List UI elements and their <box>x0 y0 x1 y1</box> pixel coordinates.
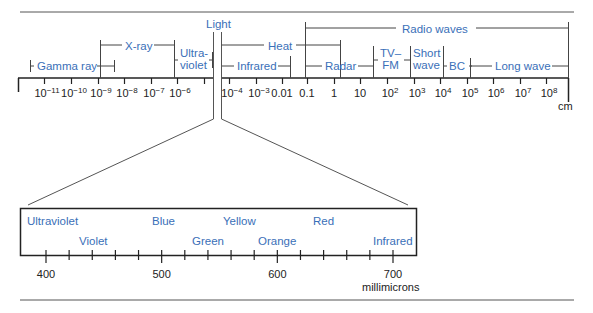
visible-axis-tick-label: 600 <box>268 268 286 280</box>
main-axis-tick-label: 10−7 <box>143 87 164 99</box>
label-ultraviolet-line1: Ultra- <box>180 47 208 59</box>
label-infrared-band: Infrared <box>237 60 277 72</box>
label-short-wave-line1: Short <box>413 47 441 59</box>
label-red: Red <box>313 215 334 227</box>
main-axis-tick-label: 10−3 <box>248 87 269 99</box>
label-orange: Orange <box>258 235 296 247</box>
visible-axis-tick-label: 700 <box>384 268 402 280</box>
label-heat: Heat <box>268 40 292 52</box>
main-axis-unit: cm <box>558 100 573 112</box>
main-axis-tick-label: 105 <box>462 87 479 99</box>
main-axis-tick-label: 10−6 <box>169 87 190 99</box>
label-radar: Radar <box>325 60 356 72</box>
label-ultraviolet-line2: violet <box>180 59 207 71</box>
label-blue: Blue <box>152 215 175 227</box>
label-yellow: Yellow <box>223 215 256 227</box>
label-tv-fm-line1: TV– <box>380 47 401 59</box>
main-axis-tick-label: 0.1 <box>299 87 314 99</box>
main-axis-tick-label: 102 <box>382 87 399 99</box>
main-axis-tick-label: 10 <box>354 87 366 99</box>
label-long-wave: Long wave <box>495 60 551 72</box>
main-axis-tick-label: 108 <box>541 87 558 99</box>
main-axis-tick-label: 10−4 <box>221 87 242 99</box>
visible-axis-tick-label: 400 <box>37 268 55 280</box>
label-tv-fm: TV– FM <box>380 47 401 71</box>
main-axis-tick-label: 10−11 <box>34 87 59 99</box>
label-short-wave: Short wave <box>413 47 441 71</box>
band-brackets <box>31 22 569 78</box>
label-ultraviolet-visible: Ultraviolet <box>27 215 78 227</box>
main-axis-tick-label: 107 <box>515 87 532 99</box>
label-green: Green <box>192 235 224 247</box>
visible-axis-ticks <box>46 250 393 263</box>
label-infrared-visible: Infrared <box>373 235 413 247</box>
visible-spectrum-box <box>21 209 417 256</box>
label-tv-fm-line2: FM <box>382 59 399 71</box>
main-axis-tick-label: 1 <box>331 87 337 99</box>
main-axis-ticks <box>45 78 547 84</box>
visible-axis-unit: millimicrons <box>362 281 419 293</box>
label-bc: BC <box>449 60 465 72</box>
label-gamma-ray: Gamma ray <box>37 60 97 72</box>
label-violet: Violet <box>79 235 108 247</box>
label-short-wave-line2: wave <box>413 59 440 71</box>
main-axis-tick-label: 106 <box>488 87 505 99</box>
main-axis-tick-label: 10−10 <box>61 87 87 99</box>
light-window-lines <box>28 32 408 205</box>
main-axis-tick-label: 10−8 <box>116 87 137 99</box>
spectrum-diagram <box>0 0 593 313</box>
label-ultraviolet: Ultra- violet <box>180 47 208 71</box>
label-light: Light <box>206 18 231 30</box>
main-axis-tick-label: 103 <box>409 87 426 99</box>
main-axis-tick-label: 104 <box>435 87 452 99</box>
main-axis-tick-label: 0.01 <box>271 87 292 99</box>
label-x-ray: X-ray <box>125 40 152 52</box>
visible-axis-tick-label: 500 <box>152 268 170 280</box>
label-radio-waves: Radio waves <box>402 23 468 35</box>
main-axis-tick-label: 10−9 <box>90 87 111 99</box>
